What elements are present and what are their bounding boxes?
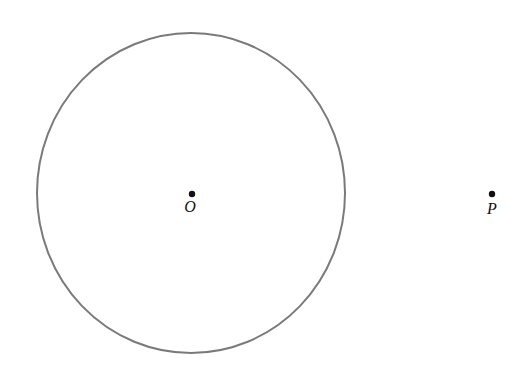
point-p-dot: [489, 191, 495, 197]
point-o-dot: [189, 191, 195, 197]
point-p-label: P: [487, 201, 497, 217]
point-o-label: O: [184, 199, 196, 215]
diagram-canvas: [0, 0, 522, 378]
